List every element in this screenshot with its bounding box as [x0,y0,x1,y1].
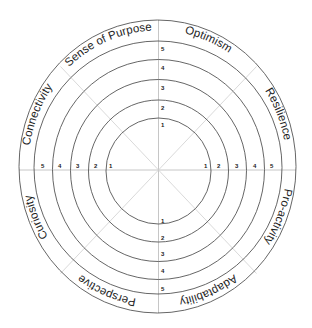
scale-numbers-bottom: 1 2 3 4 5 [161,218,165,292]
scale-number: 1 [204,163,208,169]
resilience-wheel-diagram: 1 2 3 4 5 1 2 3 4 5 1 2 3 4 5 1 2 3 4 5 … [0,0,312,328]
scale-numbers-left: 1 2 3 4 5 [41,163,113,169]
scale-number: 5 [161,286,165,292]
scale-number: 5 [161,46,165,52]
scale-number: 2 [217,163,221,169]
scale-number: 4 [161,65,165,71]
scale-number: 3 [76,163,80,169]
segment-label-curiosity: Curiosity [22,194,50,242]
scale-number: 4 [58,163,62,169]
scale-number: 1 [109,163,113,169]
scale-number: 2 [161,235,165,241]
scale-number: 4 [161,268,165,274]
scale-number: 4 [253,163,257,169]
svg-text:Connectivity: Connectivity [20,81,55,146]
scale-number: 3 [235,163,239,169]
scale-number: 2 [94,163,98,169]
scale-number: 1 [161,218,165,224]
scale-number: 5 [41,163,45,169]
segment-label-resilience: Resilience [263,85,294,141]
scale-numbers-right: 1 2 3 4 5 [204,163,274,169]
scale-number: 1 [161,122,165,128]
segment-label-connectivity: Connectivity [20,81,55,146]
scale-number: 3 [161,251,165,257]
svg-text:Curiosity: Curiosity [22,194,50,242]
scale-number: 5 [270,163,274,169]
scale-numbers-top: 1 2 3 4 5 [161,46,165,128]
svg-text:Resilience: Resilience [263,85,294,141]
scale-number: 2 [161,105,165,111]
scale-number: 3 [161,85,165,91]
